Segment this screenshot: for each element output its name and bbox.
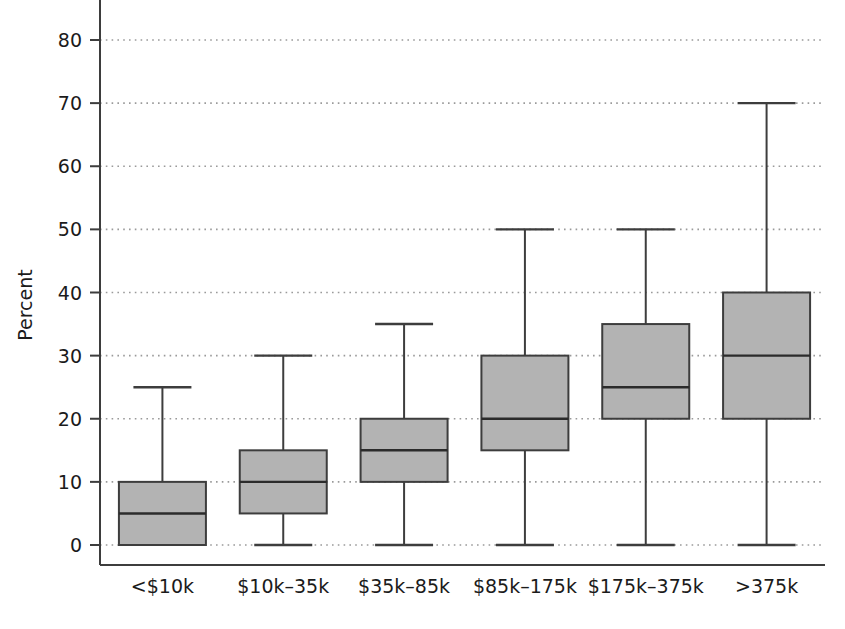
y-tick-label-50: 50 [58,218,82,240]
x-tick-label-5: $175k–375k [588,575,704,597]
x-tick-label-2: $10k–35k [237,575,329,597]
y-tick-labels-group: 01020304050607080 [58,29,82,556]
y-tick-label-80: 80 [58,29,82,51]
x-tick-label-3: $35k–85k [358,575,450,597]
box-plot-figure: 01020304050607080 <$10k$10k–35k$35k–85k$… [0,0,845,629]
y-tick-label-40: 40 [58,282,82,304]
x-tick-label-4: $85k–175k [473,575,577,597]
x-tick-label-1: <$10k [131,575,194,597]
box-plot-chart: 01020304050607080 <$10k$10k–35k$35k–85k$… [0,0,845,629]
box-iqr [602,324,689,419]
y-tick-label-60: 60 [58,155,82,177]
y-tick-label-30: 30 [58,345,82,367]
box-iqr [481,356,568,451]
x-tick-label-6: >375k [735,575,798,597]
y-tick-label-20: 20 [58,408,82,430]
y-tick-label-0: 0 [70,534,82,556]
y-tick-label-10: 10 [58,471,82,493]
y-axis-title: Percent [14,269,36,341]
y-tick-label-70: 70 [58,92,82,114]
